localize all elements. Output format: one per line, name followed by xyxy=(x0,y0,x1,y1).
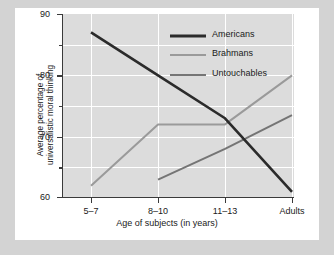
x-tick-8-10 xyxy=(158,198,159,203)
legend-label-brahmans: Brahmans xyxy=(212,48,253,58)
y-tick-60: 60 xyxy=(57,197,62,198)
figure-card: Average percentage of universalistic mor… xyxy=(15,8,319,240)
y-tick-minor-65 xyxy=(59,167,63,168)
y-tick-label-60: 60 xyxy=(40,192,50,202)
x-tick-label-8-10: 8–10 xyxy=(148,206,168,216)
legend-label-americans: Americans xyxy=(212,29,255,39)
y-axis-title-line1: Average percentage of xyxy=(36,74,46,157)
y-tick-label-80: 80 xyxy=(40,70,50,80)
y-tick-minor-75 xyxy=(59,106,63,107)
x-tick-label-adults: Adults xyxy=(279,206,304,216)
x-axis-spine xyxy=(62,197,294,198)
y-axis-spine xyxy=(62,14,63,198)
x-tick-11-13 xyxy=(225,198,226,203)
legend-swatch-americans xyxy=(170,25,206,43)
legend-item-americans: Americans xyxy=(170,28,267,39)
x-tick-adults xyxy=(292,198,293,203)
legend-swatch-untouchables xyxy=(170,64,206,82)
y-tick-label-90: 90 xyxy=(40,9,50,19)
plot-area: Americans Brahmans Untouchables xyxy=(62,14,294,198)
x-tick-label-5-7: 5–7 xyxy=(83,206,98,216)
y-tick-minor-85 xyxy=(59,45,63,46)
plot-region: Americans Brahmans Untouchables xyxy=(62,14,294,204)
legend-item-untouchables: Untouchables xyxy=(170,67,267,78)
y-tick-90: 90 xyxy=(57,14,62,15)
chart-legend: Americans Brahmans Untouchables xyxy=(170,28,267,78)
y-axis-title: Average percentage of universalistic mor… xyxy=(31,35,61,195)
y-tick-label-70: 70 xyxy=(40,132,50,142)
legend-swatch-brahmans xyxy=(170,44,206,62)
x-tick-label-11-13: 11–13 xyxy=(213,206,237,216)
x-tick-5-7 xyxy=(91,198,92,203)
legend-label-untouchables: Untouchables xyxy=(212,68,267,78)
y-tick-80: 80 xyxy=(57,75,62,76)
x-axis-title: Age of subjects (in years) xyxy=(15,218,319,228)
figure-outer-frame: Average percentage of universalistic mor… xyxy=(0,0,334,255)
y-tick-70: 70 xyxy=(57,137,62,138)
legend-item-brahmans: Brahmans xyxy=(170,48,267,59)
